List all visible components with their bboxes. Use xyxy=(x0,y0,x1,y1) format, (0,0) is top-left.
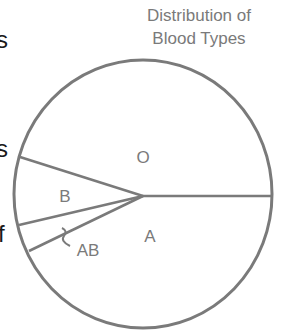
slice-label-b: B xyxy=(59,187,70,206)
pie-chart: O B AB A xyxy=(0,0,282,335)
slice-label-ab: AB xyxy=(77,241,100,260)
pie-outline xyxy=(14,60,272,328)
slice-label-o: O xyxy=(136,148,149,167)
slice-label-a: A xyxy=(144,227,156,246)
